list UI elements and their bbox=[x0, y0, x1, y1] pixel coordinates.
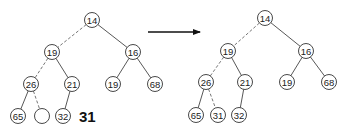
node-value: 68 bbox=[150, 79, 161, 90]
after-edge bbox=[198, 89, 204, 108]
heap-insertion-diagram: 141916262119686532 31 141916262119686531… bbox=[0, 0, 351, 133]
node-value: 31 bbox=[213, 110, 224, 121]
node-circle-icon bbox=[35, 109, 50, 124]
node-value: 14 bbox=[260, 13, 271, 24]
node-value: 32 bbox=[58, 111, 69, 122]
after-node: 19 bbox=[221, 44, 236, 59]
before-edge-dashed bbox=[58, 25, 86, 48]
before-node: 14 bbox=[85, 13, 100, 28]
insert-value-label: 31 bbox=[79, 108, 96, 125]
node-value: 65 bbox=[191, 110, 202, 121]
after-node: 21 bbox=[238, 75, 253, 90]
after-edge bbox=[310, 57, 324, 76]
node-value: 26 bbox=[26, 79, 37, 90]
before-edge-dashed bbox=[33, 91, 39, 109]
before-edge bbox=[137, 58, 151, 78]
before-node: 19 bbox=[45, 45, 60, 60]
node-value: 21 bbox=[67, 79, 78, 90]
after-node: 19 bbox=[280, 75, 295, 90]
after-edge-dashed bbox=[234, 23, 260, 46]
after-edge bbox=[271, 23, 300, 47]
after-node: 14 bbox=[258, 11, 273, 26]
after-edge bbox=[291, 57, 302, 75]
after-node: 31 bbox=[211, 108, 226, 123]
before-node bbox=[35, 109, 50, 124]
node-value: 21 bbox=[240, 77, 251, 88]
node-value: 16 bbox=[128, 47, 139, 58]
before-tree-edges bbox=[21, 25, 151, 109]
before-node: 19 bbox=[106, 77, 121, 92]
node-value: 65 bbox=[13, 111, 24, 122]
before-edge bbox=[21, 91, 28, 109]
node-value: 19 bbox=[223, 46, 234, 57]
after-edge bbox=[240, 89, 243, 107]
before-edge bbox=[117, 58, 129, 77]
before-node: 32 bbox=[56, 109, 71, 124]
node-value: 32 bbox=[234, 110, 245, 121]
node-value: 16 bbox=[301, 46, 312, 57]
node-value: 19 bbox=[282, 77, 293, 88]
node-value: 14 bbox=[87, 15, 98, 26]
node-value: 19 bbox=[47, 47, 58, 58]
node-value: 68 bbox=[324, 77, 335, 88]
before-node: 16 bbox=[126, 45, 141, 60]
before-edge bbox=[65, 91, 70, 109]
after-edge bbox=[232, 58, 242, 76]
node-value: 26 bbox=[201, 77, 212, 88]
before-node: 68 bbox=[148, 77, 163, 92]
node-value: 19 bbox=[108, 79, 119, 90]
after-node: 65 bbox=[189, 108, 204, 123]
after-tree-edges bbox=[198, 23, 324, 108]
before-edge bbox=[98, 25, 127, 48]
after-tree: 14191626211968653132 bbox=[189, 11, 337, 123]
after-edge-dashed bbox=[209, 89, 216, 108]
after-node: 68 bbox=[322, 75, 337, 90]
after-node: 16 bbox=[299, 44, 314, 59]
before-node: 65 bbox=[11, 109, 26, 124]
after-node: 32 bbox=[232, 108, 247, 123]
before-edge bbox=[56, 58, 68, 77]
before-tree: 141916262119686532 31 bbox=[11, 13, 163, 125]
after-edge-dashed bbox=[210, 57, 223, 76]
before-node: 21 bbox=[65, 77, 80, 92]
after-tree-nodes: 14191626211968653132 bbox=[189, 11, 337, 123]
before-edge-dashed bbox=[35, 58, 48, 77]
after-node: 26 bbox=[199, 75, 214, 90]
before-node: 26 bbox=[24, 77, 39, 92]
